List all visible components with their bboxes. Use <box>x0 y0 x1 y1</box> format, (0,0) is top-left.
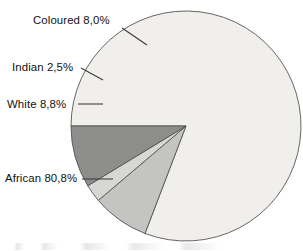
slice-label-african: African 80,8% <box>5 172 77 184</box>
pie-slices-group: African 80,8%Coloured 8,0%Indian 2,5%Whi… <box>71 11 301 241</box>
slice-label-coloured: Coloured 8,0% <box>33 14 110 26</box>
slice-label-white: White 8,8% <box>7 98 66 110</box>
pie-chart-canvas: African 80,8%Coloured 8,0%Indian 2,5%Whi… <box>0 0 303 251</box>
pie-chart: African 80,8%Coloured 8,0%Indian 2,5%Whi… <box>0 0 303 251</box>
slice-label-indian: Indian 2,5% <box>12 61 73 73</box>
